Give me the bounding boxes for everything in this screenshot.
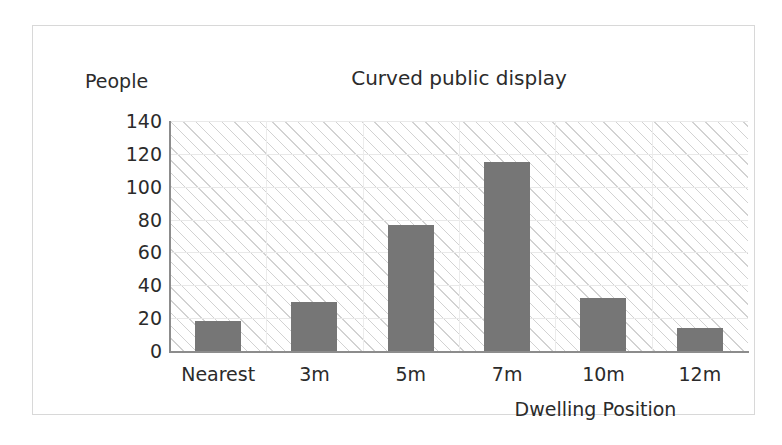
x-axis-tick: 12m xyxy=(652,362,748,386)
x-axis-title: Dwelling Position xyxy=(443,398,748,421)
y-axis-title: People xyxy=(85,70,148,92)
bar-10m[interactable] xyxy=(580,298,626,351)
y-axis-tick: 20 xyxy=(138,309,162,328)
y-axis-tick: 60 xyxy=(138,243,162,262)
y-axis-tick: 40 xyxy=(138,276,162,295)
y-axis-tick: 100 xyxy=(126,177,162,196)
x-axis-tick: 10m xyxy=(555,362,651,386)
bar-slot xyxy=(266,121,362,351)
bar-slot xyxy=(459,121,555,351)
x-axis-tick: 3m xyxy=(266,362,362,386)
y-axis-tick: 140 xyxy=(126,112,162,131)
y-axis-tick-labels: 140120100806040200 xyxy=(90,121,162,351)
bar-12m[interactable] xyxy=(677,328,723,351)
bar-5m[interactable] xyxy=(388,225,434,352)
x-axis-tick: 5m xyxy=(363,362,459,386)
x-axis-tick: Nearest xyxy=(170,362,266,386)
bar-slot xyxy=(652,121,748,351)
bar-nearest[interactable] xyxy=(195,321,241,351)
bar-series xyxy=(170,121,748,351)
bar-slot xyxy=(555,121,651,351)
x-axis-tick: 7m xyxy=(459,362,555,386)
y-axis-tick: 120 xyxy=(126,144,162,163)
y-axis-tick: 0 xyxy=(150,342,162,361)
x-axis-line xyxy=(169,351,749,353)
chart-frame: Curved public display People 14012010080… xyxy=(32,25,755,415)
bar-3m[interactable] xyxy=(291,302,337,351)
bar-slot xyxy=(170,121,266,351)
y-axis-tick: 80 xyxy=(138,210,162,229)
chart-title: Curved public display xyxy=(170,66,748,90)
bar-7m[interactable] xyxy=(484,162,530,351)
x-axis-tick-labels: Nearest3m5m7m10m12m xyxy=(170,362,748,386)
bar-slot xyxy=(363,121,459,351)
